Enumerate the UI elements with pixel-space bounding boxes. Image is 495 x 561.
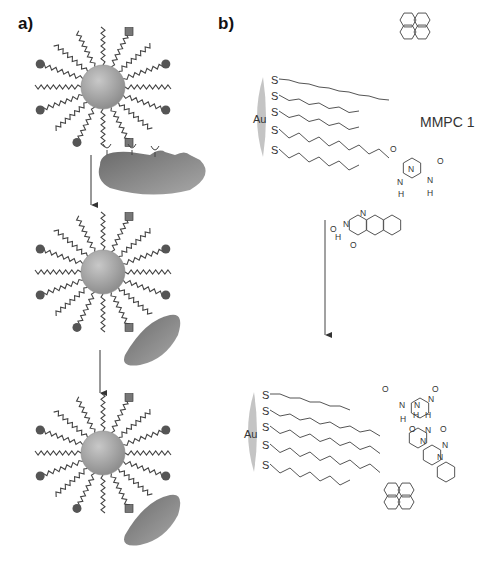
atom-label: N — [399, 400, 405, 410]
ligand-head-square — [125, 394, 133, 402]
ligand-head-circle — [161, 60, 170, 69]
ligand-head-square — [125, 323, 133, 331]
atom-label: H — [398, 189, 404, 199]
ligand-chain — [101, 109, 105, 147]
ligand-chain — [56, 469, 87, 497]
ligand-head-circle — [36, 245, 45, 254]
sulfur-label: S — [262, 439, 269, 451]
ligand-head-square — [125, 28, 133, 36]
ligand-chain — [35, 451, 81, 455]
atom-label: N — [360, 208, 366, 218]
atom-label: H — [335, 232, 341, 242]
alkyl-chain — [270, 394, 350, 410]
atom-label: H — [427, 188, 433, 198]
sulfur-label: S — [262, 405, 269, 417]
atom-label: N — [408, 164, 414, 174]
ligand-chain — [123, 428, 165, 445]
ligand-chain — [35, 270, 81, 274]
ligand-head-circle — [161, 471, 170, 480]
nanoparticle — [81, 65, 125, 109]
alkyl-chain — [279, 149, 359, 170]
ligand-chain — [123, 461, 166, 476]
ligand-chain — [75, 292, 94, 326]
ligand-chain — [101, 212, 105, 250]
gold-label: Au — [244, 428, 257, 440]
ligand-chain — [75, 473, 94, 507]
atom-label: H — [425, 410, 431, 420]
alkyl-chain — [279, 95, 359, 113]
ligand-head-circle — [72, 138, 81, 147]
sulfur-label: S — [262, 459, 269, 471]
ligand-chain — [77, 31, 95, 67]
atom-label: H — [400, 414, 406, 424]
atom-label: N — [414, 400, 420, 410]
atom-label: N — [343, 219, 349, 229]
ligand-head-circle — [36, 471, 45, 480]
flavin-ring — [366, 215, 383, 235]
atom-label: O — [350, 240, 357, 250]
sulfur-label: S — [271, 90, 278, 102]
ligand-head-circle — [36, 426, 45, 435]
ligand-head-circle — [161, 290, 170, 299]
atom-label: N — [425, 425, 431, 435]
ligand-chain — [54, 411, 88, 437]
atom-label: O — [437, 156, 444, 166]
gold-label: Au — [253, 113, 266, 125]
figure-canvas: AuSSSSSAuSSSSSONHNNHOONHONONNNHHHOONONNN — [0, 0, 495, 561]
ligand-chain — [123, 95, 166, 110]
sulfur-label: S — [262, 389, 269, 401]
sulfur-label: S — [271, 144, 278, 156]
ligand-chain — [123, 280, 166, 295]
ligand-head-square — [125, 213, 133, 221]
atom-label: O — [390, 144, 397, 154]
ligand-chain — [41, 95, 83, 112]
ligand-head-circle — [36, 290, 45, 299]
ligand-chain — [40, 429, 83, 444]
ligand-head-circle — [72, 323, 81, 332]
atom-label: N — [442, 440, 448, 450]
atom-label: N — [420, 436, 426, 446]
sulfur-label: S — [271, 106, 278, 118]
ligand-chain — [77, 397, 95, 433]
alkyl-chain — [279, 129, 389, 158]
ligand-chain — [56, 103, 87, 131]
panel-a-diagram — [35, 27, 206, 546]
protein — [124, 495, 180, 546]
ligand-chain — [40, 63, 83, 78]
ligand-chain — [40, 248, 83, 263]
nanoparticle — [81, 431, 125, 475]
atom-label: O — [382, 384, 389, 394]
flavin-ring — [349, 215, 366, 235]
ligand-head-square — [125, 504, 133, 512]
atom-label: N — [428, 394, 434, 404]
ligand-chain — [101, 294, 105, 332]
ligand-chain — [125, 85, 171, 89]
ligand-head-circle — [36, 60, 45, 69]
flavin-ring — [383, 215, 400, 235]
ligand-chain — [111, 32, 130, 66]
atom-label: O — [432, 384, 439, 394]
ligand-chain — [119, 469, 153, 495]
ligand-chain — [101, 27, 105, 65]
ligand-chain — [125, 270, 171, 274]
ligand-head-circle — [36, 105, 45, 114]
ligand-chain — [119, 103, 153, 129]
nanoparticle — [81, 250, 125, 294]
ligand-chain — [119, 409, 150, 437]
flavin-ring — [437, 462, 454, 482]
protein — [124, 315, 180, 366]
ligand-head-circle — [161, 105, 170, 114]
atom-label: H — [413, 410, 419, 420]
ligand-chain — [77, 216, 95, 252]
ligand-chain — [101, 393, 105, 431]
ligand-head-circle — [161, 426, 170, 435]
ligand-chain — [54, 45, 88, 71]
ligand-chain — [111, 473, 129, 509]
ligand-chain — [125, 451, 171, 455]
sulfur-label: S — [262, 421, 269, 433]
ligand-chain — [111, 217, 130, 251]
alkyl-chain — [270, 410, 380, 436]
sulfur-label: S — [271, 124, 278, 136]
atom-label: N — [437, 452, 443, 462]
ligand-chain — [111, 292, 129, 328]
